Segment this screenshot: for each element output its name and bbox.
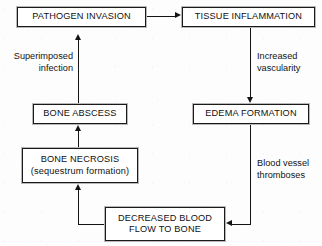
connector-edema-to-decreased-flow-horizontal [232, 224, 251, 225]
node-pathogen-invasion-label: PATHOGEN INVASION [32, 11, 131, 22]
edge-label-increased-vascularity: Increased vascularity [257, 50, 319, 74]
node-tissue-inflammation[interactable]: TISSUE INFLAMMATION [182, 7, 315, 27]
connector-inflammation-to-edema [250, 27, 251, 98]
connector-pathogen-to-inflammation [146, 16, 176, 17]
node-bone-necrosis-label-line1: BONE NECROSIS [41, 154, 120, 165]
node-bone-necrosis[interactable]: BONE NECROSIS (sequestrum formation) [22, 148, 138, 183]
edge-label-increased-vascularity-line1: Increased [257, 50, 319, 62]
connector-decreased-flow-to-necrosis-vertical [78, 190, 79, 225]
edge-label-superimposed-infection: Superimposed infection [3, 50, 73, 74]
flowchart-canvas: PATHOGEN INVASION TISSUE INFLAMMATION BO… [0, 0, 322, 246]
connector-edema-to-decreased-flow-vertical [250, 124, 251, 225]
arrowhead-to-edema-formation [247, 97, 253, 103]
node-decreased-blood-flow-label-line2: FLOW TO BONE [129, 224, 201, 235]
node-decreased-blood-flow[interactable]: DECREASED BLOOD FLOW TO BONE [105, 207, 225, 241]
node-tissue-inflammation-label: TISSUE INFLAMMATION [195, 11, 302, 22]
arrowhead-to-bone-abscess [75, 125, 81, 131]
node-pathogen-invasion[interactable]: PATHOGEN INVASION [17, 7, 146, 27]
node-bone-abscess-label: BONE ABSCESS [43, 108, 116, 119]
arrowhead-to-bone-necrosis [75, 184, 81, 190]
node-edema-formation-label: EDEMA FORMATION [205, 108, 296, 119]
edge-label-blood-vessel-thromboses: Blood vessel thromboses [257, 157, 321, 181]
node-decreased-blood-flow-label-line1: DECREASED BLOOD [118, 213, 212, 224]
edge-label-blood-vessel-thromboses-line2: thromboses [257, 169, 321, 181]
connector-abscess-to-pathogen [78, 40, 79, 104]
edge-label-superimposed-infection-line1: Superimposed [3, 50, 73, 62]
edge-label-superimposed-infection-line2: infection [3, 62, 73, 74]
node-bone-necrosis-label-line2: (sequestrum formation) [31, 166, 129, 177]
node-edema-formation[interactable]: EDEMA FORMATION [193, 104, 309, 124]
connector-necrosis-to-abscess [78, 131, 79, 148]
arrowhead-to-tissue-inflammation [175, 12, 181, 18]
node-bone-abscess[interactable]: BONE ABSCESS [33, 104, 127, 124]
arrowhead-to-pathogen-invasion [75, 34, 81, 40]
connector-decreased-flow-to-necrosis-horizontal [78, 224, 105, 225]
edge-label-blood-vessel-thromboses-line1: Blood vessel [257, 157, 321, 169]
arrowhead-to-decreased-blood-flow [226, 220, 232, 226]
edge-label-increased-vascularity-line2: vascularity [257, 62, 319, 74]
